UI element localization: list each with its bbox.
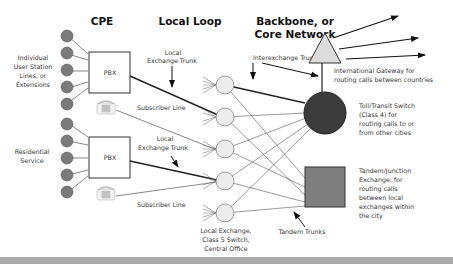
svg-text:exchanges within: exchanges within — [359, 203, 414, 211]
tandem-switch-square — [305, 167, 345, 207]
svg-text:Class 5 Switch,: Class 5 Switch, — [202, 236, 249, 243]
exchange-fan-lines — [203, 77, 216, 221]
svg-text:routing calls between countrie: routing calls between countries — [334, 76, 433, 84]
subscriber-line-label-top: Subscriber Line — [137, 104, 186, 111]
tandem-trunks-label: Tandem Trunks — [277, 228, 325, 235]
local-exchange-group — [216, 76, 234, 222]
arrow-icon — [339, 38, 418, 49]
svg-text:the city: the city — [359, 212, 383, 220]
arrow-icon — [346, 55, 425, 59]
header-local-loop: Local Loop — [158, 15, 222, 27]
station-circle — [61, 47, 73, 59]
svg-text:Individual: Individual — [18, 54, 49, 61]
pbx-label-top: PBX — [104, 69, 117, 76]
svg-text:International Gateway for: International Gateway for — [334, 67, 415, 75]
pbx-label-bottom: PBX — [104, 154, 117, 161]
arrow-icon — [294, 212, 305, 227]
tandem-trunk-lines — [225, 85, 311, 213]
svg-text:(Class 4) for: (Class 4) for — [359, 111, 398, 118]
local-exchange-circle — [216, 108, 234, 126]
toll-switch-circle — [304, 92, 346, 134]
station-group-bottom — [61, 118, 73, 198]
local-exchange-trunk-label-top: Local Exchange Trunk — [147, 49, 197, 65]
svg-text:Residential: Residential — [15, 148, 50, 155]
local-exchange-label: Local Exchange, Class 5 Switch, Central … — [200, 227, 251, 252]
toll-switch-label: Toll/Transit Switch (Class 4) for routin… — [358, 102, 415, 136]
station-circle — [61, 186, 73, 198]
svg-text:from other cities: from other cities — [359, 129, 411, 136]
tandem-exchange-label: Tandem/Junction Exchange: for routing ca… — [358, 167, 414, 220]
local-exchange-trunk-label-bottom: Local Exchange Trunk — [138, 135, 188, 152]
station-circle — [61, 98, 73, 110]
international-gateway-label: International Gateway for routing calls … — [334, 67, 433, 84]
arrow-icon — [333, 16, 398, 38]
station-circle — [61, 64, 73, 76]
phone-icon-bottom — [97, 187, 115, 200]
svg-text:Central Office: Central Office — [204, 245, 247, 252]
station-circle — [61, 118, 73, 130]
local-exchange-circle — [216, 204, 234, 222]
svg-text:Tandem/Junction: Tandem/Junction — [358, 167, 411, 175]
svg-text:Exchange Trunk: Exchange Trunk — [147, 57, 197, 65]
svg-text:Local Exchange,: Local Exchange, — [200, 227, 251, 235]
station-circle — [61, 152, 73, 164]
telecom-network-diagram: CPE Local Loop Backbone, or Core Network… — [0, 0, 453, 268]
subscriber-line-bottom — [116, 182, 217, 196]
svg-text:Exchange: for: Exchange: for — [359, 176, 403, 184]
subscriber-line-label-bottom: Subscriber Line — [137, 201, 186, 208]
svg-text:between local: between local — [359, 194, 403, 201]
individual-label: Individual User Station Lines, or Extens… — [14, 54, 53, 88]
svg-text:Local: Local — [165, 49, 182, 56]
station-circle — [61, 30, 73, 42]
phone-icon-top — [97, 101, 115, 114]
station-circle — [61, 169, 73, 181]
local-exchange-circle — [216, 172, 234, 190]
residential-label: Residential Service — [15, 148, 50, 164]
arrow-icon — [262, 63, 318, 76]
svg-text:Lines, or: Lines, or — [20, 72, 47, 79]
bottom-divider-bar — [0, 257, 453, 264]
svg-text:Exchange Trunk: Exchange Trunk — [138, 144, 188, 152]
svg-text:Extensions: Extensions — [16, 81, 50, 88]
svg-text:Local: Local — [157, 135, 174, 142]
header-backbone-1: Backbone, or — [256, 15, 334, 27]
svg-text:routing calls: routing calls — [359, 185, 398, 193]
svg-text:routing calls to or: routing calls to or — [359, 120, 415, 128]
local-exchange-circle — [216, 140, 234, 158]
station-circle — [61, 135, 73, 147]
svg-text:User Station: User Station — [14, 63, 53, 70]
interexchange-trunk-line — [225, 85, 305, 103]
arrow-icon — [171, 156, 178, 167]
header-cpe: CPE — [91, 15, 114, 27]
svg-text:Service: Service — [20, 157, 43, 164]
station-circle — [61, 81, 73, 93]
station-group-top — [61, 30, 73, 110]
svg-text:Toll/Transit Switch: Toll/Transit Switch — [358, 102, 415, 109]
local-exchange-circle — [216, 76, 234, 94]
